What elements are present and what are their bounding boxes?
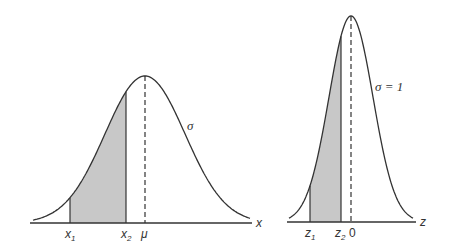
zero-label: 0 (349, 226, 356, 240)
normal-distribution-diagram: x x1 x2 μ σ z z1 z2 0 σ = 1 (0, 0, 451, 251)
mu-label: μ (140, 227, 148, 241)
x1-label: x1 (64, 227, 75, 243)
left-panel: x x1 x2 μ σ (30, 76, 263, 243)
sigma-label: σ (187, 118, 194, 133)
z2-label: z2 (334, 226, 346, 242)
sigma-equals-one-label: σ = 1 (375, 79, 403, 94)
left-shaded-area (70, 92, 126, 223)
z-axis-label: z (419, 215, 426, 229)
x-axis-label: x (255, 216, 263, 230)
left-normal-curve (33, 76, 250, 220)
z1-label: z1 (304, 226, 315, 242)
x2-label: x2 (120, 227, 132, 243)
right-panel: z z1 z2 0 σ = 1 (287, 16, 426, 242)
right-shaded-area (310, 36, 341, 222)
